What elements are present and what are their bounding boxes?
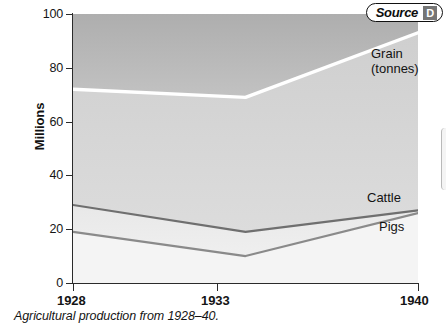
series-label-cattle: Cattle	[367, 190, 401, 205]
y-tick-mark-0	[66, 283, 73, 284]
y-tick-mark-60	[66, 122, 73, 123]
series-label-pigs: Pigs	[379, 219, 404, 234]
x-tick-label-1933: 1933	[201, 294, 230, 308]
x-tick-label-1940: 1940	[400, 294, 429, 308]
y-tick-mark-20	[66, 229, 73, 230]
x-tick-mark-1933	[217, 284, 218, 291]
chart-plot-area	[73, 14, 418, 283]
page-edge-decoration	[441, 128, 446, 190]
y-tick-label-20: 20	[49, 223, 63, 235]
figure-caption: Agricultural production from 1928–40.	[14, 309, 219, 323]
y-tick-mark-80	[66, 68, 73, 69]
series-label-grain-line1: Grain	[371, 46, 403, 61]
source-badge-letter: D	[423, 6, 437, 20]
x-axis-line	[72, 283, 419, 284]
area-chart-svg	[73, 14, 418, 283]
series-label-grain-line2: (tonnes)	[371, 61, 419, 76]
y-tick-label-80: 80	[49, 62, 63, 74]
y-axis-line	[72, 13, 73, 284]
y-tick-mark-40	[66, 175, 73, 176]
y-axis-title: Millions	[32, 82, 47, 172]
figure-agricultural-production: 0 20 40 60 80 100 1928 1933 1940 Million…	[0, 0, 446, 331]
source-badge[interactable]: Source D	[366, 3, 443, 22]
x-tick-mark-1928	[73, 284, 74, 291]
y-tick-mark-100	[66, 14, 73, 15]
y-tick-label-100: 100	[43, 8, 63, 20]
x-tick-label-1928: 1928	[57, 294, 86, 308]
y-tick-label-40: 40	[49, 169, 63, 181]
source-badge-label: Source	[376, 6, 418, 19]
x-tick-mark-1940	[418, 284, 419, 291]
y-tick-label-60: 60	[49, 116, 63, 128]
y-tick-label-0: 0	[56, 277, 63, 289]
series-label-grain: Grain (tonnes)	[371, 46, 419, 76]
